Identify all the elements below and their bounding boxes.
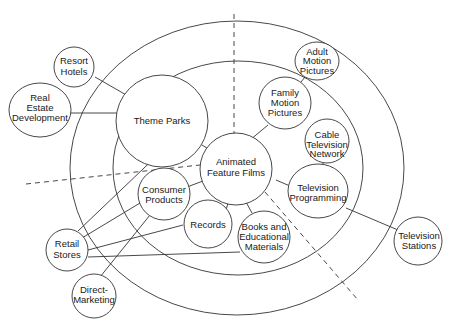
link-retail-consumer	[82, 203, 140, 238]
svg-text:Products: Products	[145, 194, 183, 205]
node-theme-parks: Theme Parks	[116, 75, 208, 167]
link-tvprog-tvstations	[346, 208, 398, 230]
svg-text:Network: Network	[310, 148, 345, 159]
node-books-educational-materials: Books and Educational Materials	[238, 211, 290, 263]
node-adult-motion-pictures: Adult Motion Pictures	[295, 42, 339, 80]
svg-text:Stores: Stores	[53, 249, 81, 260]
link-retail-books	[88, 252, 240, 257]
svg-text:Animated: Animated	[216, 156, 256, 167]
node-cable-television-network: Cable Television Network	[305, 119, 349, 163]
node-consumer-products: Consumer Products	[138, 168, 190, 220]
synergy-diagram: Resort Hotels Real Estate Development Th…	[0, 0, 453, 323]
node-direct-marketing: Direct- Marketing	[72, 274, 116, 318]
svg-text:Programming: Programming	[289, 192, 346, 203]
svg-text:Theme Parks: Theme Parks	[134, 115, 191, 126]
svg-text:Resort: Resort	[60, 55, 88, 66]
svg-text:Hotels: Hotels	[61, 66, 88, 77]
svg-text:Pictures: Pictures	[268, 107, 303, 118]
link-tvprog-animated	[276, 180, 290, 186]
svg-text:Retail: Retail	[55, 238, 79, 249]
link-consumer-animated	[187, 181, 203, 187]
svg-text:Pictures: Pictures	[300, 65, 335, 76]
node-real-estate-development: Real Estate Development	[9, 83, 71, 137]
node-television-stations: Television Stations	[394, 217, 442, 265]
node-retail-stores: Retail Stores	[46, 229, 88, 271]
node-television-programming: Television Programming	[288, 164, 348, 218]
node-animated-feature-films: Animated Feature Films	[200, 133, 272, 205]
svg-text:Stations: Stations	[402, 240, 437, 251]
svg-text:Development: Development	[12, 112, 68, 123]
svg-text:Materials: Materials	[245, 241, 284, 252]
node-records: Records	[184, 200, 232, 248]
node-family-motion-pictures: Family Motion Pictures	[259, 77, 311, 129]
link-direct-consumer	[100, 215, 150, 277]
link-resort-themeparks	[95, 77, 128, 96]
svg-text:Marketing: Marketing	[73, 294, 115, 305]
svg-text:Records: Records	[190, 219, 226, 230]
link-adult-family	[301, 77, 305, 82]
node-resort-hotels: Resort Hotels	[54, 47, 94, 87]
svg-text:Feature Films: Feature Films	[207, 167, 265, 178]
